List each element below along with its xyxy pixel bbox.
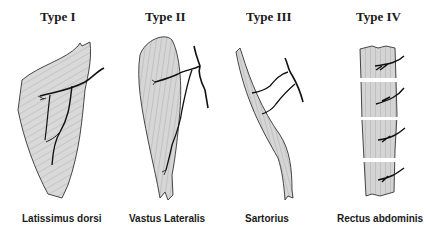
caption-latissimus-dorsi: Latissimus dorsi [22, 213, 101, 224]
rectus-abdominis-drawing [360, 46, 405, 196]
muscle-diagrams [0, 0, 428, 234]
caption-vastus-lateralis: Vastus Lateralis [129, 213, 205, 224]
caption-rectus-abdominis: Rectus abdominis [337, 213, 423, 224]
caption-sartorius: Sartorius [245, 213, 289, 224]
latissimus-dorsi-drawing [18, 42, 104, 198]
sartorius-drawing [236, 48, 303, 200]
vastus-lateralis-drawing [139, 37, 208, 200]
